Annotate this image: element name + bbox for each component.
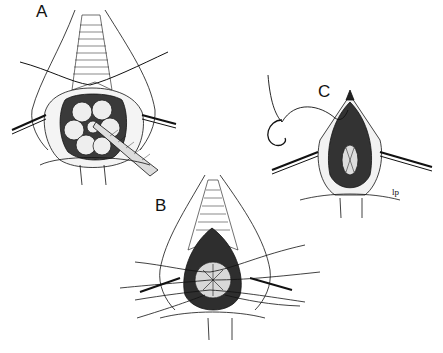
surgical-illustration: lp A B C bbox=[0, 0, 443, 353]
illustration-drawing: lp bbox=[0, 0, 443, 353]
panel-a-drawing bbox=[12, 10, 176, 185]
artist-signature: lp bbox=[392, 187, 400, 197]
panel-label-b: B bbox=[155, 196, 166, 216]
panel-c-drawing bbox=[268, 75, 432, 218]
panel-b-drawing bbox=[120, 175, 320, 340]
panel-label-a: A bbox=[36, 2, 47, 22]
panel-label-c: C bbox=[318, 82, 330, 102]
